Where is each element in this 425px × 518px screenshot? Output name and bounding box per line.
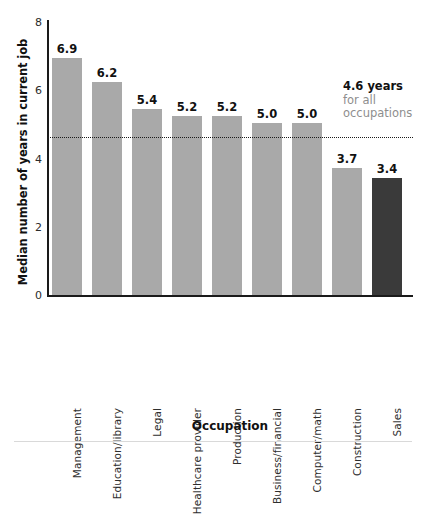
bar-management[interactable] [52,58,82,295]
reference-line-annotation: 4.6 years for all occupations [343,80,425,121]
y-axis-tick-labels: 8 6 4 2 0 [24,0,42,452]
x-axis-category-labels: ManagementEducation/libraryLegalHealthca… [47,300,413,412]
reference-line-4-6 [47,137,413,138]
bar-production[interactable] [212,116,242,295]
bottom-divider [14,441,412,442]
bar-value-label: 3.4 [364,162,410,176]
x-axis-title: Occupation [47,419,413,433]
bar-sales[interactable] [372,178,402,295]
y-tick-4: 4 [24,153,42,166]
reference-annotation-sub-2: occupations [343,107,425,121]
y-tick-0: 0 [24,289,42,302]
bar-value-label: 5.0 [284,107,330,121]
x-axis-line [47,295,413,297]
bar-value-label: 6.2 [84,66,130,80]
bar-computer-math[interactable] [292,123,322,295]
y-tick-6: 6 [24,84,42,97]
bar-education-library[interactable] [92,82,122,295]
y-tick-8: 8 [24,16,42,29]
bar-construction[interactable] [332,168,362,295]
reference-annotation-value: 4.6 years [343,80,425,94]
reference-annotation-sub-1: for all [343,94,425,108]
y-tick-2: 2 [24,221,42,234]
bar-business-financial[interactable] [252,123,282,295]
bar-healthcare-provider[interactable] [172,116,202,295]
bar-value-label: 6.9 [44,42,90,56]
